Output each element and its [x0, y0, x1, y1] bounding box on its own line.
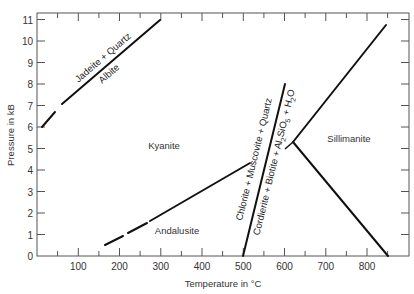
- y-tick-label: 3: [27, 187, 33, 198]
- x-tick-label: 300: [152, 261, 169, 272]
- y-tick-label: 6: [27, 122, 33, 133]
- y-axis-ticks: [37, 20, 409, 235]
- y-tick-label: 0: [27, 251, 33, 262]
- y-tick-label: 10: [22, 36, 34, 47]
- region-sillimanite: Sillimanite: [327, 133, 370, 144]
- x-axis-title: Temperature in °C: [185, 278, 262, 289]
- y-tick-label: 9: [27, 58, 33, 69]
- y-tick-label: 8: [27, 79, 33, 90]
- y-tick-label: 1: [27, 230, 33, 241]
- x-tick-label: 600: [276, 261, 293, 272]
- y-tick-label: 7: [27, 101, 33, 112]
- x-tick-label: 800: [359, 261, 376, 272]
- region-andalusite: Andalusite: [155, 225, 199, 236]
- y-tick-label: 2: [27, 208, 33, 219]
- y-tick-label: 4: [27, 165, 33, 176]
- x-tick-label: 100: [70, 261, 87, 272]
- jadeite-albite-line: [62, 20, 160, 104]
- y-tick-label: 11: [23, 15, 34, 26]
- x-tick-label: 700: [317, 261, 334, 272]
- x-tick-label: 200: [111, 261, 128, 272]
- y-tick-labels: 0 1 2 3 4 5 6 7 8 9 10 11: [22, 15, 34, 263]
- y-axis-title: Pressure in kB: [5, 104, 16, 166]
- x-tick-labels: 100 200 300 400 500 600 700 800: [70, 261, 376, 272]
- x-tick-label: 500: [235, 261, 252, 272]
- region-kyanite: Kyanite: [148, 140, 180, 151]
- andalusite-sillimanite-line: [293, 142, 388, 256]
- jadeite-albite-dash: [42, 112, 55, 127]
- phase-diagram: 100 200 300 400 500 600 700 800 0 1 2 3 …: [0, 0, 414, 294]
- triple-point-connector: [285, 142, 293, 149]
- x-tick-label: 400: [194, 261, 211, 272]
- kyanite-andalusite-dash1: [105, 236, 123, 245]
- kyanite-andalusite-dash2: [128, 223, 147, 233]
- y-tick-label: 5: [27, 144, 33, 155]
- kyanite-sillimanite-line: [293, 25, 386, 142]
